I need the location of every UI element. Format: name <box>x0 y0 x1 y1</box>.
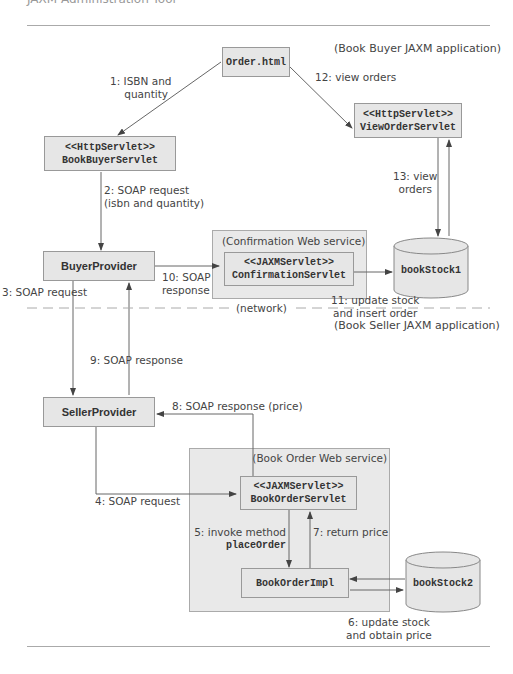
edge-3-label: 3: SOAP request <box>2 286 87 299</box>
edge-11-label: 11: update stock and insert order <box>331 294 419 320</box>
bookstock1-label: bookStock1 <box>394 265 468 276</box>
edge-2-label: 2: SOAP request (isbn and quantity) <box>104 184 204 210</box>
book-buyer-servlet-node: <<HttpServlet>> BookBuyerServlet <box>44 136 176 171</box>
book-buyer-servlet-stereotype: <<HttpServlet>> <box>65 141 155 154</box>
confirmation-servlet-name: ConfirmationServlet <box>232 269 346 282</box>
seller-provider-name: SellerProvider <box>62 406 137 418</box>
book-order-servlet-name: BookOrderServlet <box>250 493 346 506</box>
view-order-servlet-stereotype: <<HttpServlet>> <box>363 108 453 121</box>
edge-10-label: 10: SOAP response <box>162 271 211 297</box>
book-order-impl-name: BookOrderImpl <box>256 577 334 590</box>
order-html-name: Order.html <box>226 56 286 69</box>
confirmation-servlet-stereotype: <<JAXMServlet>> <box>244 256 334 269</box>
edge-1-label: 1: ISBN and quantity <box>110 75 168 101</box>
seller-provider-node: SellerProvider <box>43 397 155 427</box>
book-order-servlet-node: <<JAXMServlet>> BookOrderServlet <box>240 476 357 510</box>
bookstock2-label: bookStock2 <box>406 578 480 589</box>
book-buyer-servlet-name: BookBuyerServlet <box>62 154 158 167</box>
network-label: (network) <box>236 302 287 315</box>
edge-4-label: 4: SOAP request <box>95 495 180 508</box>
buyer-provider-node: BuyerProvider <box>43 251 155 281</box>
confirmation-servlet-node: <<JAXMServlet>> ConfirmationServlet <box>224 252 354 286</box>
edge-6-label: 6: update stock and obtain price <box>346 616 432 642</box>
edge-5-label: 5: invoke method placeOrder <box>193 526 286 552</box>
edge-8-label: 8: SOAP response (price) <box>172 400 303 413</box>
order-html-node: Order.html <box>222 47 290 77</box>
edge-7-label: 7: return price <box>313 526 388 539</box>
edge-13-label: 13: view orders <box>393 170 437 196</box>
view-order-servlet-node: <<HttpServlet>> ViewOrderServlet <box>354 103 462 138</box>
view-order-servlet-name: ViewOrderServlet <box>360 121 456 134</box>
edge-12-label: 12: view orders <box>315 71 396 84</box>
book-order-servlet-stereotype: <<JAXMServlet>> <box>253 480 343 493</box>
edge-9-label: 9: SOAP response <box>90 354 183 367</box>
buyer-provider-name: BuyerProvider <box>61 260 137 272</box>
book-order-impl-node: BookOrderImpl <box>241 568 349 598</box>
